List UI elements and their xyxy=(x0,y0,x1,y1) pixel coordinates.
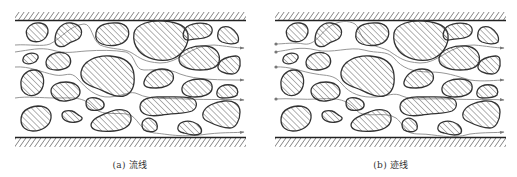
grain-field xyxy=(281,21,500,135)
grain-field xyxy=(21,21,240,135)
porous-flow-figure: (a) 流线 (b) 迹线 xyxy=(0,0,517,177)
inlet-dot-icon xyxy=(274,65,277,68)
inlet-dot-icon xyxy=(274,50,277,53)
panel-b-pathlines xyxy=(274,12,506,147)
inlet-dot-icon xyxy=(274,42,277,45)
inlet-dot-icon xyxy=(274,97,277,100)
caption-panel-a: (a) 流线 xyxy=(70,158,190,171)
inlet-markers xyxy=(274,42,277,100)
panel-a-streamlines xyxy=(15,12,246,147)
figure-canvas xyxy=(0,0,517,177)
caption-panel-b: (b) 迹线 xyxy=(331,158,451,171)
